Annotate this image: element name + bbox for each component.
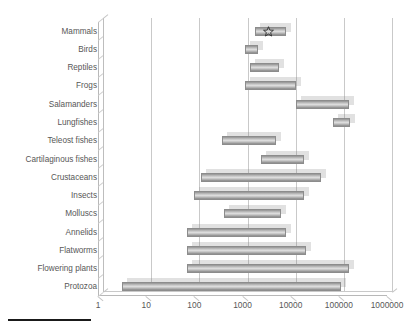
category-label: Teleost fishes: [0, 136, 97, 145]
range-bar: [224, 209, 281, 218]
gridline: [151, 18, 152, 292]
range-bar: [122, 282, 341, 291]
range-bar: [222, 136, 276, 145]
value-tick-label: 1: [96, 300, 101, 310]
range-bar: [194, 191, 304, 200]
bottom-rule: [8, 319, 91, 321]
value-tick-label: 100: [187, 300, 201, 310]
value-tick-label: 10000: [279, 300, 302, 310]
category-label: Insects: [0, 191, 97, 200]
category-label: Annelids: [0, 228, 97, 237]
range-bar: [333, 118, 350, 127]
category-label: Flatworms: [0, 246, 97, 255]
category-label: Lungfishes: [0, 118, 97, 127]
gridline: [103, 18, 104, 292]
range-bar: [201, 173, 321, 182]
range-bar: [187, 264, 348, 273]
category-label: Crustaceans: [0, 173, 97, 182]
value-tick-label: 100000: [325, 300, 353, 310]
category-label: Cartilaginous fishes: [0, 155, 97, 164]
category-label: Flowering plants: [0, 264, 97, 273]
range-bar: [250, 63, 279, 72]
category-label: Frogs: [0, 81, 97, 90]
gridline: [344, 18, 345, 292]
value-tick-label: 1000: [233, 300, 252, 310]
category-label: Birds: [0, 45, 97, 54]
range-bar: [255, 27, 286, 36]
category-label: Mammals: [0, 27, 97, 36]
range-bar: [245, 81, 297, 90]
range-bar: [261, 155, 304, 164]
range-bar: [187, 246, 306, 255]
category-label: Molluscs: [0, 209, 97, 218]
value-tick-label: 1000000: [371, 300, 404, 310]
range-bar: [245, 45, 259, 54]
range-bar: [296, 100, 349, 109]
gridline: [392, 18, 393, 292]
category-label: Protozoa: [0, 282, 97, 291]
category-label: Salamanders: [0, 100, 97, 109]
genome-size-range-chart: MammalsBirdsReptilesFrogsSalamandersLung…: [0, 0, 410, 331]
range-bar: [187, 228, 286, 237]
category-label: Reptiles: [0, 63, 97, 72]
category-axis-labels: MammalsBirdsReptilesFrogsSalamandersLung…: [0, 0, 97, 331]
value-tick-label: 10: [141, 300, 150, 310]
